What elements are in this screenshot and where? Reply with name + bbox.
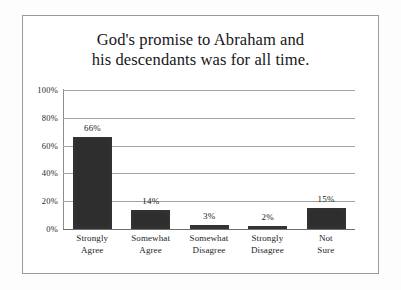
category-label-somewhat-agree: Somewhat Agree [121,233,179,256]
y-tick-label-60: 60% [12,142,58,151]
chart-title-line-1: God's promise to Abraham and [23,30,378,50]
y-tick-label-80: 80% [12,114,58,123]
chart-title-line-2: his descendants was for all time. [23,50,378,70]
category-label-not-sure: Not Sure [297,233,355,256]
category-label-not-sure-line-2: Sure [297,245,355,257]
bar-value-strongly-disagree: 2% [261,213,273,222]
category-label-somewhat-agree-line-2: Agree [121,245,179,257]
plot-area: 66% 14% 3% 2% 15% [63,90,355,229]
bar-strongly-agree[interactable] [73,137,112,229]
bar-strongly-disagree[interactable] [248,226,287,229]
category-label-strongly-agree-line-2: Agree [63,245,121,257]
category-label-strongly-disagree-line-2: Disagree [238,245,296,257]
bar-somewhat-agree[interactable] [131,210,170,230]
category-label-somewhat-disagree: Somewhat Disagree [180,233,238,256]
category-label-somewhat-disagree-line-2: Disagree [180,245,238,257]
bar-not-sure[interactable] [307,208,346,229]
category-label-somewhat-agree-line-1: Somewhat [121,233,179,245]
category-label-not-sure-line-1: Not [297,233,355,245]
bar-value-somewhat-disagree: 3% [203,212,215,221]
y-tick-label-40: 40% [12,169,58,178]
y-tick-label-0: 0% [12,225,58,234]
category-label-strongly-disagree: Strongly Disagree [238,233,296,256]
bar-slot-somewhat-disagree: 3% [190,90,229,229]
y-tick-label-100: 100% [12,86,58,95]
chart-title: God's promise to Abraham and his descend… [23,30,378,70]
bar-slot-not-sure: 15% [307,90,346,229]
bar-slot-strongly-agree: 66% [73,90,112,229]
bar-somewhat-disagree[interactable] [190,225,229,229]
category-label-somewhat-disagree-line-1: Somewhat [180,233,238,245]
bar-value-somewhat-agree: 14% [142,197,159,206]
category-label-strongly-disagree-line-1: Strongly [238,233,296,245]
category-label-strongly-agree: Strongly Agree [63,233,121,256]
y-tick-label-20: 20% [12,197,58,206]
bar-slot-somewhat-agree: 14% [131,90,170,229]
bar-slot-strongly-disagree: 2% [248,90,287,229]
gridline-baseline-0 [63,229,355,230]
category-label-strongly-agree-line-1: Strongly [63,233,121,245]
bar-value-not-sure: 15% [318,195,335,204]
category-axis: Strongly Agree Somewhat Agree Somewhat D… [63,233,355,267]
bar-value-strongly-agree: 66% [84,124,101,133]
